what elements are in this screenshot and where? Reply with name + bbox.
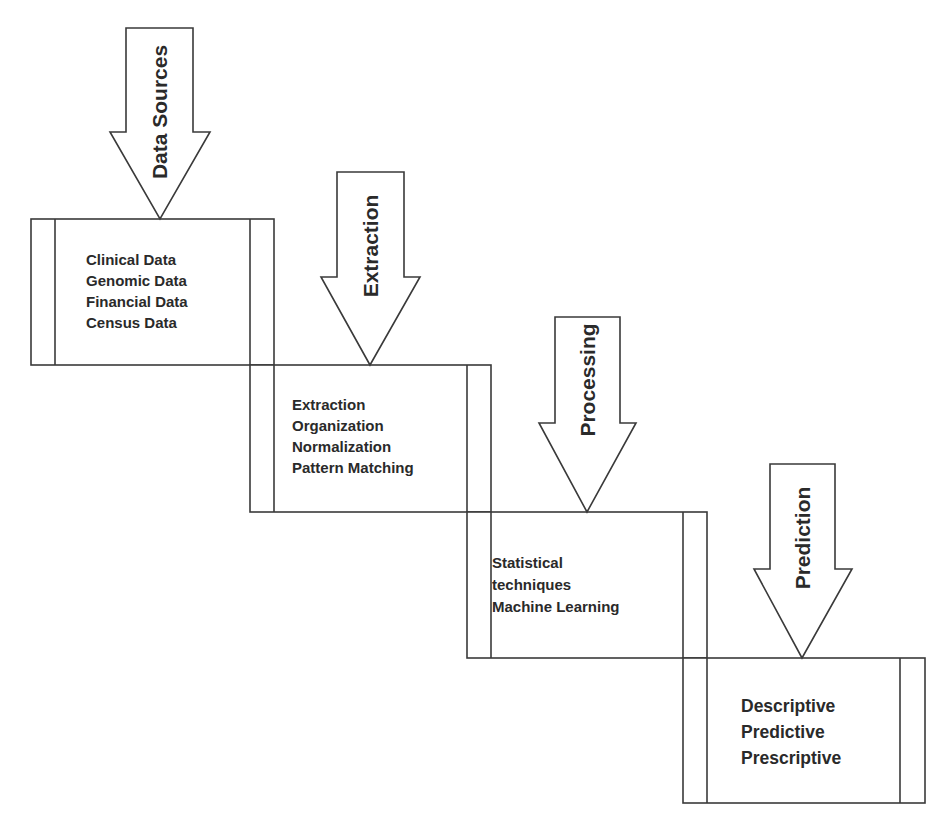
stage-2-item: Organization [292,415,414,436]
stage-3-items: Statistical techniques Machine Learning [492,552,620,618]
stage-2-item: Pattern Matching [292,457,414,478]
stage-1-item: Census Data [86,312,188,333]
arrow-label-data-sources: Data Sources [148,45,171,179]
stage-1-items: Clinical Data Genomic Data Financial Dat… [86,249,188,333]
stage-1-item: Genomic Data [86,270,188,291]
stage-2-item: Extraction [292,394,414,415]
stage-3-item: Machine Learning [492,596,620,618]
arrow-down-icon: Prediction [754,464,852,658]
stage-4-item: Prescriptive [741,745,841,771]
stage-4-item: Predictive [741,719,841,745]
arrow-label-extraction: Extraction [359,195,382,298]
stage-1-item: Clinical Data [86,249,188,270]
arrow-down-icon: Extraction [321,172,420,365]
stage-2-item: Normalization [292,436,414,457]
stage-3-item: Statistical [492,552,620,574]
stage-1-item: Financial Data [86,291,188,312]
arrow-label-processing: Processing [576,323,599,436]
stage-4-item: Descriptive [741,693,841,719]
stage-3-item: techniques [492,574,620,596]
arrow-label-prediction: Prediction [791,487,814,590]
arrow-down-icon: Data Sources [110,28,210,219]
stage-4-items: Descriptive Predictive Prescriptive [741,693,841,771]
arrow-down-icon: Processing [539,317,636,512]
stage-2-items: Extraction Organization Normalization Pa… [292,394,414,478]
